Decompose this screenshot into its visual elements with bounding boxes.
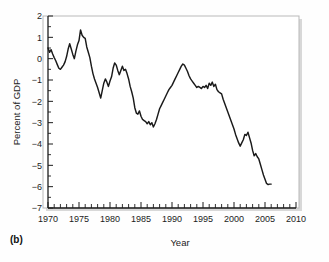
- x-axis-title: Year: [170, 237, 189, 248]
- x-tick-label: 1990: [162, 214, 182, 224]
- y-tick-label: 2: [37, 11, 42, 21]
- x-tick-label: 2010: [286, 214, 306, 224]
- y-axis-tick-labels: 210−1−2−3−4−5−6−7: [32, 11, 42, 213]
- x-tick-label: 1980: [100, 214, 120, 224]
- x-tick-label: 1970: [38, 214, 58, 224]
- plot-frame: [43, 16, 299, 208]
- chart-svg: 210−1−2−3−4−5−6−7 1970197519801985199019…: [0, 0, 329, 262]
- x-tick-label: 2000: [224, 214, 244, 224]
- panel-label: (b): [10, 234, 23, 245]
- x-tick-label: 1975: [69, 214, 89, 224]
- y-axis-title: Percent of GDP: [11, 79, 22, 146]
- y-tick-label: −5: [32, 161, 42, 171]
- x-tick-label: 2005: [255, 214, 275, 224]
- y-tick-label: −4: [32, 139, 42, 149]
- y-tick-label: −3: [32, 118, 42, 128]
- x-tick-label: 1985: [131, 214, 151, 224]
- y-tick-label: 1: [37, 33, 42, 43]
- y-tick-label: −7: [32, 203, 42, 213]
- x-axis-tick-labels: 197019751980198519901995200020052010: [38, 214, 306, 224]
- y-tick-label: 0: [37, 54, 42, 64]
- y-tick-label: −2: [32, 97, 42, 107]
- y-tick-label: −6: [32, 182, 42, 192]
- x-tick-label: 1995: [193, 214, 213, 224]
- y-tick-label: −1: [32, 75, 42, 85]
- figure-panel: 210−1−2−3−4−5−6−7 1970197519801985199019…: [0, 0, 329, 262]
